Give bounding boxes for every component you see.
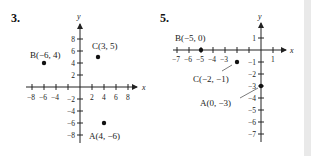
point-a — [259, 84, 263, 88]
y-axis-label: y — [76, 12, 81, 21]
x-tick-labels: −8−6−4 2468 — [27, 93, 130, 102]
point-a — [102, 121, 106, 125]
svg-text:2: 2 — [90, 93, 94, 102]
plot-problem-3: x y −8−6−4 2468 8642 −2−4−6−8 B(−6, 4) C… — [26, 12, 146, 143]
svg-text:8: 8 — [71, 35, 75, 44]
point-b — [42, 61, 46, 65]
svg-text:−6: −6 — [39, 93, 47, 102]
svg-text:−4: −4 — [248, 94, 256, 103]
x-tick-labels: −7−6−5 −4−31 — [172, 55, 275, 64]
svg-text:−6: −6 — [184, 55, 192, 64]
y-axis-label: y — [257, 12, 262, 21]
svg-text:2: 2 — [71, 71, 75, 80]
x-axis-label: x — [141, 83, 146, 92]
svg-text:−1: −1 — [248, 58, 256, 67]
point-c-leader-line — [222, 65, 232, 71]
point-c-label: C(3, 5) — [92, 41, 118, 51]
point-c-label: C(−2, −1) — [193, 74, 229, 84]
svg-text:−7: −7 — [248, 130, 256, 139]
svg-text:4: 4 — [102, 93, 106, 102]
plot-problem-5: x y −7−6−5 −4−31 1−1−2 −3−4−5 −6−7 B(−5, — [172, 12, 294, 142]
svg-text:6: 6 — [71, 47, 75, 56]
svg-text:−2: −2 — [67, 95, 75, 104]
svg-text:−5: −5 — [248, 106, 256, 115]
svg-text:1: 1 — [271, 55, 275, 64]
svg-text:−6: −6 — [248, 118, 256, 127]
svg-text:−4: −4 — [67, 107, 75, 116]
svg-text:−4: −4 — [51, 93, 59, 102]
svg-text:−3: −3 — [220, 55, 228, 64]
svg-text:−7: −7 — [172, 55, 180, 64]
point-b — [199, 48, 203, 52]
point-b-label: B(−6, 4) — [30, 50, 61, 60]
svg-text:−5: −5 — [196, 55, 204, 64]
point-b-label: B(−5, 0) — [175, 33, 206, 43]
svg-text:6: 6 — [114, 93, 118, 102]
svg-text:−4: −4 — [208, 55, 216, 64]
point-a-label: A(4, −6) — [89, 131, 120, 141]
svg-text:−8: −8 — [27, 93, 35, 102]
coordinate-plots: x y −8−6−4 2468 8642 −2−4−6−8 B(−6, 4) C… — [0, 0, 311, 156]
svg-text:8: 8 — [126, 93, 130, 102]
point-c — [96, 55, 100, 59]
svg-text:−6: −6 — [67, 119, 75, 128]
point-c — [235, 60, 239, 64]
svg-text:−8: −8 — [67, 131, 75, 140]
svg-text:−2: −2 — [248, 70, 256, 79]
svg-text:1: 1 — [252, 34, 256, 43]
x-axis-label: x — [289, 46, 294, 55]
svg-text:4: 4 — [71, 59, 75, 68]
point-a-label: A(0, −3) — [200, 98, 231, 108]
